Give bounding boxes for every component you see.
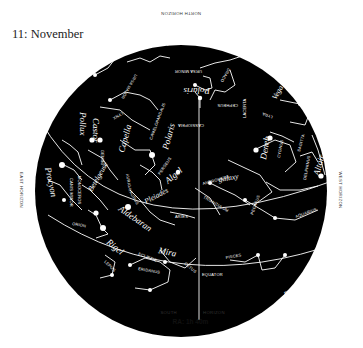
north-horizon-label: NORTH HORIZON bbox=[161, 11, 201, 16]
star-label-pollux: Pollux bbox=[78, 111, 88, 136]
const-aql: AQUILA bbox=[326, 146, 332, 162]
const-ari: ARIES bbox=[175, 214, 188, 219]
equator-label: EQUATOR bbox=[202, 272, 223, 277]
right-ascension-label: RA: 1h 40m bbox=[0, 318, 363, 325]
star-label-castor: Castor bbox=[91, 118, 101, 143]
star-label-polaris-top: Polaris bbox=[183, 86, 211, 96]
const-hercules: HERCULES bbox=[246, 33, 269, 49]
south-horizon-label: HORIZON bbox=[203, 310, 225, 315]
const-lac: LACERTA bbox=[242, 98, 247, 118]
const-cas: CASSIOPEIA bbox=[178, 123, 204, 128]
const-cmi: CANIS MINOR bbox=[69, 178, 74, 207]
const-mon: MONOCEROS bbox=[77, 176, 82, 205]
const-bootes: BOOTES bbox=[198, 35, 216, 40]
const-canes: CANES VEN. bbox=[165, 21, 182, 46]
east-horizon-label: EAST HORIZON bbox=[19, 172, 24, 208]
const-umi: URSA MINOR bbox=[175, 69, 202, 74]
south-label: SOUTH bbox=[160, 310, 177, 315]
const-cep: CEPHEUS bbox=[217, 103, 238, 108]
west-horizon-label: WEST HORIZON bbox=[338, 172, 343, 209]
star-chart: NORTH HORIZON EAST HORIZON WEST HORIZON … bbox=[0, 0, 363, 348]
const-gem: GEMINI bbox=[100, 150, 105, 165]
